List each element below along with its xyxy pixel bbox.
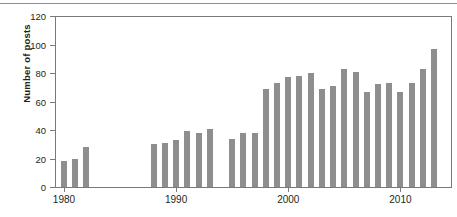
bar <box>308 73 314 187</box>
bar <box>285 77 291 187</box>
bar <box>162 143 168 187</box>
bar <box>375 84 381 187</box>
y-axis-tick-label: 100 <box>0 39 46 50</box>
bar <box>353 72 359 187</box>
y-axis-tick-label: 0 <box>0 182 46 193</box>
bar <box>252 133 258 187</box>
x-axis-tick-mark <box>176 188 177 192</box>
bar <box>229 139 235 187</box>
bar <box>274 83 280 187</box>
bar <box>330 86 336 187</box>
bar <box>151 144 157 187</box>
bar <box>263 89 269 187</box>
y-axis-tick-label: 80 <box>0 68 46 79</box>
bar <box>431 49 437 187</box>
x-axis-tick-mark <box>64 188 65 192</box>
bar <box>296 76 302 187</box>
y-axis-tick-mark <box>50 16 55 17</box>
y-axis-tick-label: 60 <box>0 96 46 107</box>
y-axis-tick-mark <box>50 159 55 160</box>
y-axis-tick-label: 120 <box>0 11 46 22</box>
bar <box>420 69 426 187</box>
y-axis-tick-mark <box>50 45 55 46</box>
y-axis-tick-mark <box>50 102 55 103</box>
bar <box>173 140 179 187</box>
x-axis-tick-mark <box>400 188 401 192</box>
y-axis-tick-label: 40 <box>0 125 46 136</box>
bar <box>409 83 415 187</box>
y-axis-tick-mark <box>50 130 55 131</box>
bar <box>83 147 89 187</box>
y-axis-tick-mark <box>50 187 55 188</box>
x-axis-tick-mark <box>288 188 289 192</box>
bar <box>341 69 347 187</box>
x-axis-tick-label: 1990 <box>165 194 187 205</box>
x-axis-tick-label: 2000 <box>277 194 299 205</box>
x-axis-tick-label: 1980 <box>53 194 75 205</box>
bar <box>207 129 213 187</box>
bar <box>184 131 190 187</box>
bar <box>364 92 370 187</box>
bar <box>240 133 246 187</box>
bar <box>72 159 78 188</box>
bar-chart-figure: Number of posts 020406080100120198019902… <box>0 0 457 217</box>
x-axis-tick-label: 2010 <box>389 194 411 205</box>
bar <box>61 161 67 187</box>
bar <box>386 83 392 187</box>
bar <box>196 133 202 187</box>
x-axis-line <box>55 187 452 188</box>
top-divider-rule <box>0 3 457 4</box>
bar <box>397 92 403 187</box>
bar <box>319 89 325 187</box>
y-axis-tick-mark <box>50 73 55 74</box>
y-axis-tick-label: 20 <box>0 153 46 164</box>
